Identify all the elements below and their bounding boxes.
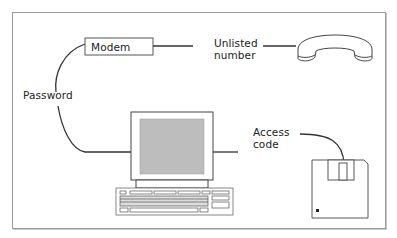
computer-icon xyxy=(116,112,233,215)
unlisted-number-label-line1: Unlisted xyxy=(214,37,258,49)
access-code-label-line1: Access xyxy=(253,126,290,138)
floppy-disk-icon xyxy=(312,160,368,218)
access-code-label-line2: code xyxy=(253,138,279,150)
keyboard-icon xyxy=(116,188,233,215)
modem-label: Modem xyxy=(91,41,130,53)
diagram-canvas xyxy=(0,0,397,238)
telephone-handset-icon xyxy=(298,35,372,61)
password-label: Password xyxy=(23,89,73,101)
unlisted-number-label-line2: number xyxy=(214,49,256,61)
screen xyxy=(140,119,204,174)
